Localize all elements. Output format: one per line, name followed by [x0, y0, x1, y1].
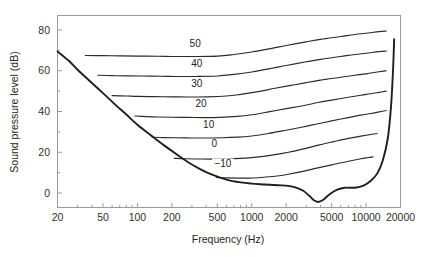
contour-label-0: 0	[211, 138, 217, 149]
x-tick-label: 20000	[386, 211, 415, 223]
y-tick-label: 40	[38, 105, 50, 117]
x-tick-label: 20	[52, 211, 64, 223]
contour-label-50: 50	[190, 38, 202, 49]
contour-line-30	[112, 71, 386, 97]
contour-label-30: 30	[191, 78, 203, 89]
equal-loudness-contours	[85, 31, 386, 178]
contour-level-labels: 50403020100−10	[184, 38, 234, 169]
contour-label--10: −10	[214, 158, 231, 169]
contour-label-20: 20	[195, 98, 207, 109]
y-tick-label: 60	[38, 64, 50, 76]
y-axis-title: Sound pressure level (dB)	[8, 51, 20, 172]
plot-frame	[58, 16, 401, 208]
x-axis-title: Frequency (Hz)	[192, 233, 264, 245]
chart-canvas: 20501002005001000200050001000020000 0204…	[0, 0, 427, 257]
equal-loudness-contour-figure: 20501002005001000200050001000020000 0204…	[0, 0, 427, 257]
plot-border	[58, 16, 401, 208]
y-tick-label: 80	[38, 24, 50, 36]
y-axis-tick-labels: 020406080	[38, 24, 50, 199]
x-tick-label: 500	[209, 211, 227, 223]
x-tick-label: 2000	[274, 211, 298, 223]
contour-line--10	[216, 157, 373, 178]
x-tick-label: 50	[97, 211, 109, 223]
x-tick-label: 1000	[240, 211, 264, 223]
x-tick-label: 10000	[351, 211, 380, 223]
contour-label-10: 10	[203, 119, 215, 130]
x-tick-label: 200	[163, 211, 181, 223]
x-axis-tick-labels: 20501002005001000200050001000020000	[52, 211, 416, 223]
contour-line-10	[152, 110, 386, 138]
y-tick-label: 0	[44, 187, 50, 199]
contour-line-50	[85, 31, 386, 57]
contour-label-40: 40	[191, 58, 203, 69]
x-tick-label: 100	[129, 211, 147, 223]
x-tick-label: 5000	[320, 211, 344, 223]
y-tick-label: 20	[38, 146, 50, 158]
contour-line-20	[135, 91, 386, 117]
contour-line-40	[98, 51, 386, 77]
